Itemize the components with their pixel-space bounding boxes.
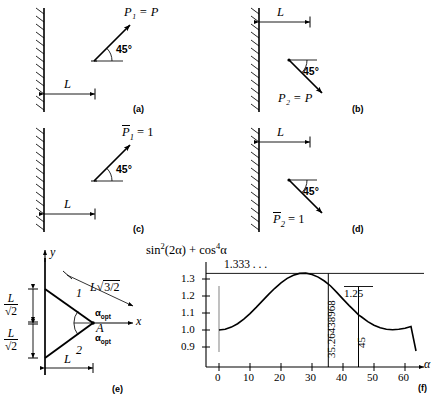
y-tick-label-13: 1.3 [181,273,195,284]
dim-lower-num: L [4,327,18,340]
alpha-sub-upper: opt [101,313,111,320]
y-tick-label-11: 1.1 [181,307,195,318]
force-value-c: = 1 [137,125,153,139]
dimension-label-upper-e: L √2 [4,292,18,317]
x-tick-label-50: 50 [367,372,378,383]
angle-label-upper-e: αopt [95,308,111,320]
length-label-c: L [64,198,71,211]
dim-upper-den: √2 [4,305,18,317]
angle-label-lower-e: αopt [95,333,111,345]
angle-label-a: 45° [116,44,132,55]
angle-label-c: 45° [116,164,132,175]
dim-upper-num: L [4,292,18,305]
plot-title-main: sin [146,243,161,257]
force-sub-d: 2 [281,219,285,229]
x-tick-label-60: 60 [398,372,409,383]
caption-d: (d) [352,225,364,234]
y-tick-label-09: 0.9 [181,341,195,352]
panel-c [36,128,130,232]
force-symbol-c: P [122,125,130,139]
plot-title-end: α [220,243,227,257]
force-label-b: P₂ = P [278,92,312,105]
panel-f-plot [202,262,424,371]
caption-a: (a) [133,105,144,114]
force-symbol-d: P [273,212,281,226]
truss-bar-1 [45,289,93,323]
x-axis-label-e: x [136,315,141,327]
wall-hatching-a [36,8,44,110]
x-tick-label-0: 0 [215,372,221,383]
caption-f: (f) [418,384,427,393]
leader-radicand-e: 3/2 [103,280,119,294]
leader-label-e: L√3/2 [90,280,120,294]
caption-b: (b) [352,105,364,114]
angle-label-b: 45° [303,66,319,77]
panel-a [36,8,130,112]
x-tick-label-30: 30 [305,372,316,383]
bar-2-label: 2 [76,344,82,356]
dim-lower-den: √2 [4,340,18,352]
plot-curve [219,273,416,351]
length-label-a: L [64,78,71,91]
sqrt-glyph-e: √ [97,280,104,294]
length-label-d: L [277,126,284,139]
dimension-label-lower-e: L √2 [4,327,18,352]
angle-arc-c [107,168,112,181]
plot-title: sin2(2α) + cos4α [146,242,227,257]
x-tick-label-40: 40 [336,372,347,383]
force-value-d: = 1 [288,212,304,226]
wall-hatching-d [251,128,259,230]
wall-hatching-c [36,128,44,230]
length-label-b: L [277,6,284,19]
angle-arc-a [107,48,112,61]
marker-label-alpha-opt: 35.26438968 [326,300,337,358]
wall-hatching-b [251,8,259,110]
bar-1-label: 1 [76,287,82,299]
force-sub-c: 1 [130,132,134,142]
marker-label-alpha-45: 45 [356,337,367,348]
plot-title-mid: (2α) + cos [165,243,216,257]
angle-label-d: 45° [303,186,319,197]
alpha-sub-lower: opt [101,338,111,345]
x-tick-label-20: 20 [274,372,285,383]
force-label-d: P2 = 1 [273,212,304,228]
caption-e: (e) [112,385,123,394]
y-axis-label-e: y [50,246,55,258]
x-axis-label-f: α [424,358,430,370]
x-tick-label-10: 10 [243,372,254,383]
y-tick-label-12: 1.2 [181,290,195,301]
peak-value-label: 1.333 . . . [224,259,267,271]
force-label-a: P₁ = P [124,6,158,19]
caption-c: (c) [133,225,144,234]
dimension-label-horizontal-e: L [64,353,71,366]
marker-label-125: 1.25 [344,288,363,299]
force-label-c: P1 = 1 [122,125,153,141]
y-tick-label-10: 1.0 [181,324,195,335]
